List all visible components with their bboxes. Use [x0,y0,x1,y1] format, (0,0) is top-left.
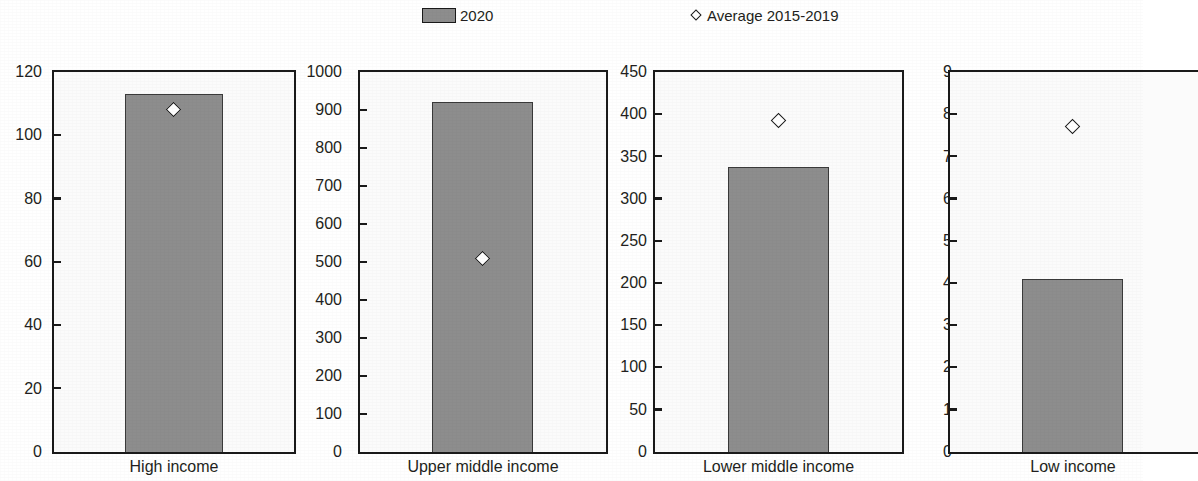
diamond-marker-icon [690,9,703,22]
chart-legend: 2020 Average 2015-2019 [0,0,1143,44]
bar-2020 [432,102,533,451]
bar-2020 [1022,279,1123,452]
y-axis-tick-label: 450 [620,64,647,80]
y-axis-tick-label: 20 [24,381,42,397]
y-axis-tick [949,155,957,157]
y-axis-tick [949,282,957,284]
y-axis-tick [949,324,957,326]
y-axis-tick [654,240,662,242]
y-axis-tick-label: 300 [620,191,647,207]
y-axis-tick-label: 50 [629,402,647,418]
y-axis-tick-label: 250 [620,233,647,249]
y-axis-tick-label: 40 [24,317,42,333]
y-axis-tick [654,155,662,157]
y-axis-tick [53,197,61,199]
y-axis-tick-label: 350 [620,149,647,165]
legend-item-average: Average 2015-2019 [690,8,839,23]
y-axis-tick-label: 0 [33,444,42,460]
y-axis-tick-label: 200 [315,368,342,384]
y-axis-tick-label: 80 [24,191,42,207]
y-axis-tick-label: 60 [24,254,42,270]
bar-2020 [728,167,829,451]
chart-panel-row: 020406080100120 High income 010020030040… [0,44,1143,481]
bar-swatch-icon [422,8,456,23]
category-label-panel-3: Low income [948,458,1198,476]
y-axis-tick [359,185,367,187]
y-axis-tick-label: 300 [315,330,342,346]
y-axis-tick [53,324,61,326]
panel-high-income: 020406080100120 High income [0,44,300,481]
average-marker-diamond [475,251,490,266]
y-axis-tick [359,223,367,225]
y-axis-tick [359,337,367,339]
panel-upper-middle-income: 01002003004005006007008009001000 Upper m… [300,44,605,481]
y-axis-tick [359,375,367,377]
y-axis-labels-panel-1: 01002003004005006007008009001000 [300,44,348,454]
y-axis-tick [654,113,662,115]
y-axis-tick [949,408,957,410]
category-label-panel-2: Lower middle income [653,458,904,476]
y-axis-tick-label: 700 [315,178,342,194]
y-axis-tick [949,197,957,199]
y-axis-tick [359,413,367,415]
y-axis-tick [359,261,367,263]
y-axis-tick [949,113,957,115]
plot-area-panel-1 [358,70,608,454]
y-axis-tick [359,147,367,149]
legend-item-2020: 2020 [422,8,493,23]
average-marker-diamond [1065,119,1080,134]
y-axis-tick-label: 100 [15,127,42,143]
y-axis-tick-label: 500 [315,254,342,270]
panel-lower-middle-income: 050100150200250300350400450 Lower middle… [605,44,910,481]
y-axis-tick [359,299,367,301]
y-axis-tick-label: 1000 [306,64,342,80]
plot-area-panel-0 [52,70,296,454]
y-axis-tick-label: 400 [315,292,342,308]
category-label-panel-0: High income [52,458,296,476]
y-axis-tick [53,261,61,263]
y-axis-tick [359,109,367,111]
average-marker-diamond [166,102,181,117]
y-axis-tick [654,282,662,284]
y-axis-tick [53,134,61,136]
legend-label-average: Average 2015-2019 [707,8,839,23]
y-axis-tick [654,197,662,199]
y-axis-tick-label: 800 [315,140,342,156]
y-axis-labels-panel-2: 050100150200250300350400450 [605,44,653,454]
legend-label-2020: 2020 [460,8,493,23]
category-label-panel-1: Upper middle income [358,458,608,476]
y-axis-tick [654,408,662,410]
y-axis-labels-panel-0: 020406080100120 [0,44,48,454]
y-axis-tick [53,387,61,389]
y-axis-tick-label: 120 [15,64,42,80]
y-axis-tick-label: 100 [620,359,647,375]
y-axis-tick [654,366,662,368]
average-marker-diamond [771,113,786,128]
plot-area-panel-2 [653,70,904,454]
y-axis-tick-label: 900 [315,102,342,118]
y-axis-tick-label: 0 [333,444,342,460]
y-axis-tick-label: 150 [620,317,647,333]
y-axis-tick [654,324,662,326]
panel-low-income: 0123456789 Low income [910,44,1143,481]
bar-2020 [125,94,223,451]
y-axis-tick [949,240,957,242]
y-axis-tick-label: 0 [638,444,647,460]
y-axis-tick-label: 100 [315,406,342,422]
y-axis-tick-label: 400 [620,106,647,122]
y-axis-tick-label: 200 [620,275,647,291]
plot-area-panel-3 [948,70,1198,454]
y-axis-tick [949,366,957,368]
y-axis-tick-label: 600 [315,216,342,232]
